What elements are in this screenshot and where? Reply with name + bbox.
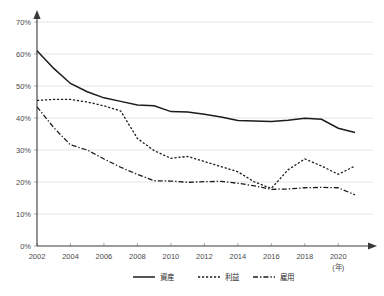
- legend-label-1: 資産: [160, 272, 174, 282]
- x-axis-tick-label: 2020: [330, 252, 347, 261]
- x-axis-tick-label: 2004: [62, 252, 79, 261]
- x-axis-tick-label: 2016: [263, 252, 280, 261]
- y-axis-tick-label: 30%: [16, 146, 31, 155]
- x-axis-tick-label: 2008: [129, 252, 146, 261]
- y-axis-tick-label: 40%: [16, 114, 31, 123]
- x-axis-arrow-icon: [368, 242, 377, 249]
- x-axis-tick-label: 2006: [96, 252, 113, 261]
- data-series-group: [37, 51, 355, 195]
- y-axis-tick-label: 60%: [16, 50, 31, 59]
- x-axis-unit-label: (年): [332, 262, 344, 272]
- y-axis-tick-label: 70%: [16, 18, 31, 27]
- y-axis-tick-label: 50%: [16, 82, 31, 91]
- x-axis-tick-label: 2018: [296, 252, 313, 261]
- y-axis-tick-label: 0%: [20, 242, 31, 251]
- chart-canvas: 0%10%20%30%40%50%60%70% 2002200420062008…: [0, 0, 384, 296]
- x-axis-tick-label: 2010: [163, 252, 180, 261]
- chart-legend: 資産利益雇用: [133, 272, 294, 282]
- y-axis-arrow-icon: [33, 10, 40, 19]
- series-line-3: [37, 107, 355, 195]
- y-axis-labels-group: 0%10%20%30%40%50%60%70%: [16, 18, 31, 251]
- x-axis-labels-group: 2002200420062008201020122014201620182020: [29, 252, 347, 261]
- y-axis-tick-label: 10%: [16, 210, 31, 219]
- gridlines-group: [37, 22, 373, 214]
- x-axis-tick-label: 2012: [196, 252, 213, 261]
- x-axis-tick-label: 2014: [229, 252, 246, 261]
- series-line-1: [37, 51, 355, 133]
- legend-label-2: 利益: [225, 272, 240, 282]
- y-axis-tick-label: 20%: [16, 178, 31, 187]
- legend-label-3: 雇用: [280, 272, 294, 282]
- x-axis-tick-label: 2002: [29, 252, 46, 261]
- line-chart: 0%10%20%30%40%50%60%70% 2002200420062008…: [0, 0, 384, 296]
